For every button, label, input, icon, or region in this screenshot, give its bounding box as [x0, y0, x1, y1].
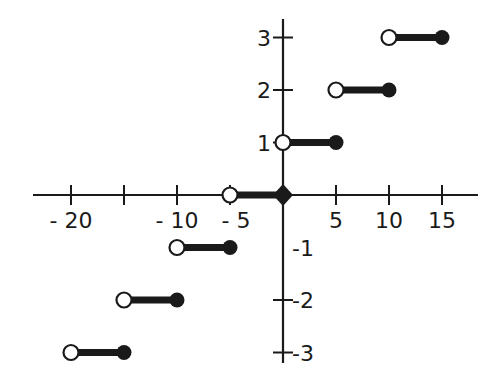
closed-endpoint [170, 293, 185, 308]
x-tick-label: 15 [428, 208, 456, 233]
axes [33, 19, 478, 363]
y-tick-label: 1 [257, 131, 271, 156]
open-endpoint [117, 293, 132, 308]
x-tick-label: - 5 [222, 208, 251, 233]
y-tick-label: -3 [292, 341, 314, 366]
x-tick-label: - 20 [50, 208, 93, 233]
step-segment [223, 184, 294, 206]
step-segment [170, 240, 238, 255]
step-segment [382, 30, 450, 45]
step-function-chart: - 20- 10- 551015321-1-2-3 [0, 0, 504, 389]
x-tick-label: 5 [329, 208, 343, 233]
closed-endpoint [329, 135, 344, 150]
closed-endpoint [117, 345, 132, 360]
step-segment [64, 345, 132, 360]
closed-endpoint [435, 30, 450, 45]
y-tick-label: -1 [292, 236, 314, 261]
step-segment [117, 293, 185, 308]
open-endpoint [382, 30, 397, 45]
y-tick-label: 3 [257, 26, 271, 51]
open-endpoint [170, 240, 185, 255]
closed-endpoint [382, 83, 397, 98]
x-tick-label: - 10 [156, 208, 199, 233]
closed-endpoint [223, 240, 238, 255]
open-endpoint [276, 135, 291, 150]
open-endpoint [64, 345, 79, 360]
y-tick-label: -2 [292, 288, 314, 313]
y-tick-label: 2 [257, 78, 271, 103]
open-endpoint [329, 83, 344, 98]
open-endpoint [223, 188, 238, 203]
x-tick-label: 10 [375, 208, 403, 233]
step-segment [329, 83, 397, 98]
closed-endpoint-origin [273, 184, 293, 206]
step-segment [276, 135, 344, 150]
